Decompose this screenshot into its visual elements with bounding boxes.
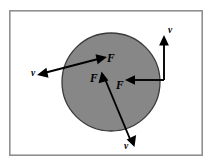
force-label-top: F [106, 52, 115, 64]
force-label-right: F [115, 79, 124, 91]
force-label-left: F [89, 72, 98, 84]
figure-container: F F F v v v [0, 0, 212, 166]
force-velocity-diagram: F F F v v v [0, 0, 212, 166]
disc-body [62, 33, 160, 131]
